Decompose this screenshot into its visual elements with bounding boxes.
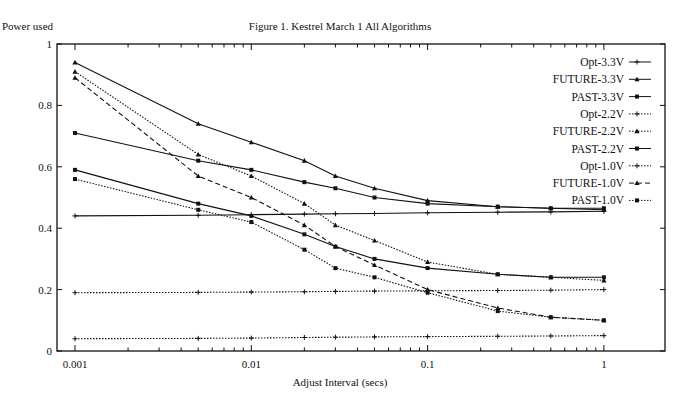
legend-label: Opt-3.3V xyxy=(580,56,624,69)
legend-label: PAST-2.2V xyxy=(571,143,624,155)
series-opt-2-2v xyxy=(73,287,607,295)
x-axis-label: Adjust Interval (secs) xyxy=(293,376,388,389)
legend-entry: PAST-2.2V xyxy=(571,143,651,155)
series-past-1-0v xyxy=(73,177,606,322)
x-tick-label: 0.1 xyxy=(421,358,435,370)
legend-label: Opt-2.2V xyxy=(580,108,624,121)
series-past-3-3v xyxy=(73,131,606,210)
series-opt-1-0v xyxy=(73,333,607,341)
legend-label: PAST-1.0V xyxy=(571,194,624,206)
y-tick-label: 0.8 xyxy=(38,99,52,111)
series-group xyxy=(72,60,606,341)
legend-entry: FUTURE-3.3V xyxy=(553,73,651,85)
line-chart: Power used Figure 1. Kestrel March 1 All… xyxy=(0,0,674,400)
y-tick-label: 1 xyxy=(47,38,53,50)
legend-entry: PAST-1.0V xyxy=(571,194,651,206)
legend-entry: Opt-3.3V xyxy=(580,56,651,69)
legend-entry: Opt-1.0V xyxy=(580,160,651,173)
y-axis-label: Power used xyxy=(2,20,54,32)
chart-title: Figure 1. Kestrel March 1 All Algorithms xyxy=(249,20,431,32)
legend-entry: Opt-2.2V xyxy=(580,108,651,121)
legend-entry: PAST-3.3V xyxy=(571,91,651,103)
legend-label: PAST-3.3V xyxy=(571,91,624,103)
y-tick-label: 0.6 xyxy=(38,161,52,173)
legend-entry: FUTURE-1.0V xyxy=(553,177,651,189)
legend-label: FUTURE-3.3V xyxy=(553,73,625,85)
legend-entry: FUTURE-2.2V xyxy=(553,125,651,137)
y-tick-label: 0 xyxy=(47,345,53,357)
y-tick-label: 0.4 xyxy=(38,222,52,234)
legend-label: FUTURE-1.0V xyxy=(553,177,625,189)
x-tick-label: 0.01 xyxy=(242,358,261,370)
series-opt-3-3v xyxy=(73,209,607,219)
x-tick-label: 1 xyxy=(601,358,607,370)
x-tick-label: 0.001 xyxy=(63,358,88,370)
y-tick-label: 0.2 xyxy=(38,284,52,296)
legend-label: FUTURE-2.2V xyxy=(553,125,625,137)
series-past-2-2v xyxy=(73,168,606,279)
series-future-1-0v xyxy=(72,75,606,322)
legend: Opt-3.3VFUTURE-3.3VPAST-3.3VOpt-2.2VFUTU… xyxy=(553,56,651,206)
legend-label: Opt-1.0V xyxy=(580,160,624,173)
